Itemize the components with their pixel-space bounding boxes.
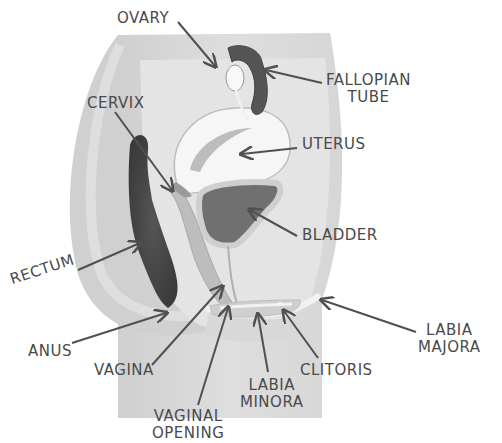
label-ovary: OVARY <box>117 10 169 27</box>
label-vaginal-opening: VAGINAL OPENING <box>152 408 224 442</box>
label-labia-majora: LABIA MAJORA <box>418 322 481 356</box>
label-cervix: CERVIX <box>87 95 145 112</box>
label-uterus: UTERUS <box>302 136 366 153</box>
label-labia-minora: LABIA MINORA <box>240 377 303 411</box>
label-uterus-text: UTERUS <box>302 136 366 153</box>
label-cervix-text: CERVIX <box>87 95 145 112</box>
label-vagina: VAGINA <box>94 362 154 379</box>
label-clitoris-text: CLITORIS <box>300 362 373 379</box>
label-bladder-text: BLADDER <box>302 227 378 244</box>
label-anus: ANUS <box>28 343 72 360</box>
arrow-labia-majora <box>322 300 416 332</box>
label-labia-majora-line1: LABIA <box>418 322 481 339</box>
label-ovary-text: OVARY <box>117 10 169 27</box>
label-anus-text: ANUS <box>28 343 72 360</box>
label-bladder: BLADDER <box>302 227 378 244</box>
label-fallopian-tube-line1: FALLOPIAN <box>326 72 411 89</box>
label-labia-minora-line1: LABIA <box>240 377 303 394</box>
label-fallopian-tube: FALLOPIAN TUBE <box>326 72 411 106</box>
label-vaginal-opening-line2: OPENING <box>152 425 224 442</box>
label-clitoris: CLITORIS <box>300 362 373 379</box>
label-labia-majora-line2: MAJORA <box>418 339 481 356</box>
label-fallopian-tube-line2: TUBE <box>326 89 411 106</box>
label-labia-minora-line2: MINORA <box>240 394 303 411</box>
label-vaginal-opening-line1: VAGINAL <box>152 408 224 425</box>
label-vagina-text: VAGINA <box>94 362 154 379</box>
